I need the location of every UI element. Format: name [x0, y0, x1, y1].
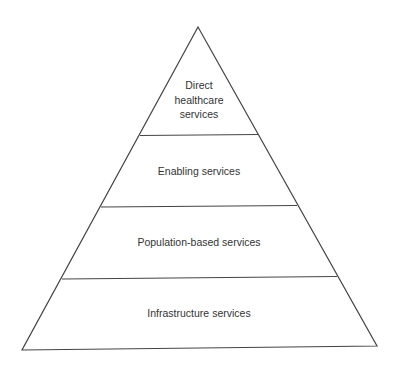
pyramid-outline: [22, 27, 377, 350]
tier-label-line: Enabling services: [158, 164, 240, 179]
tier-label-line: Population-based services: [137, 235, 260, 250]
tier-label-enabling: Enabling services: [158, 164, 240, 179]
tier-label-line: Infrastructure services: [147, 306, 250, 321]
tier-label-line: healthcare: [174, 93, 223, 108]
tier-divider-2: [101, 206, 297, 208]
tier-divider-1: [140, 135, 258, 136]
tier-label-direct-healthcare: Direct healthcare services: [174, 78, 223, 122]
tier-label-infrastructure: Infrastructure services: [147, 306, 250, 321]
tier-label-population-based: Population-based services: [137, 235, 260, 250]
tier-label-line: services: [174, 107, 223, 122]
tier-label-line: Direct: [174, 78, 223, 93]
tier-divider-3: [62, 277, 337, 280]
